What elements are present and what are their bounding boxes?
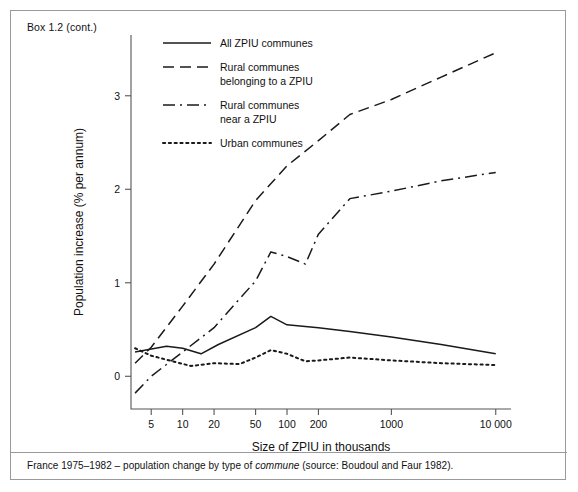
y-axis-title: Population increase (% per annum) [72, 128, 86, 316]
caption-divider [11, 452, 567, 453]
x-tick-label: 5 [148, 418, 154, 430]
x-tick-label: 50 [250, 418, 262, 430]
x-tick-label: 10 [177, 418, 189, 430]
legend-label: belonging to a ZPIU [220, 75, 313, 87]
box-container: Box 1.2 (cont.) 5102050100200100010 0000… [10, 10, 566, 480]
data-series [135, 53, 496, 393]
caption-italic-text: commune [255, 460, 299, 471]
legend-label: Urban communes [220, 137, 303, 149]
x-tick-label: 1000 [380, 418, 404, 430]
caption-pre-text: France 1975–1982 – population change by … [27, 460, 255, 471]
legend-label: All ZPIU communes [220, 37, 313, 49]
x-axis-title: Size of ZPIU in thousands [252, 440, 391, 452]
y-tick-label: 3 [114, 90, 120, 102]
series-line [135, 316, 496, 353]
y-tick-label: 0 [114, 370, 120, 382]
y-tick-label: 1 [114, 277, 120, 289]
figure-area: 5102050100200100010 0000123 All ZPIU com… [11, 11, 567, 452]
x-tick-label: 100 [278, 418, 296, 430]
chart-legend: All ZPIU communesRural communesbelonging… [163, 37, 313, 149]
axis-ticks: 5102050100200100010 0000123 [114, 90, 512, 430]
legend-label: Rural communes [220, 99, 299, 111]
x-tick-label: 200 [310, 418, 328, 430]
legend-label: Rural communes [220, 61, 299, 73]
y-tick-label: 2 [114, 183, 120, 195]
figure-caption: France 1975–1982 – population change by … [27, 460, 453, 471]
x-tick-label: 20 [208, 418, 220, 430]
axis-titles: Size of ZPIU in thousandsPopulation incr… [72, 128, 390, 452]
legend-label: near a ZPIU [220, 113, 277, 125]
series-line [135, 53, 496, 363]
plot-frame [131, 35, 511, 409]
chart-svg: 5102050100200100010 0000123 All ZPIU com… [11, 11, 567, 452]
x-tick-label: 10 000 [480, 418, 512, 430]
caption-post-text: (source: Boudoul and Faur 1982). [299, 460, 453, 471]
